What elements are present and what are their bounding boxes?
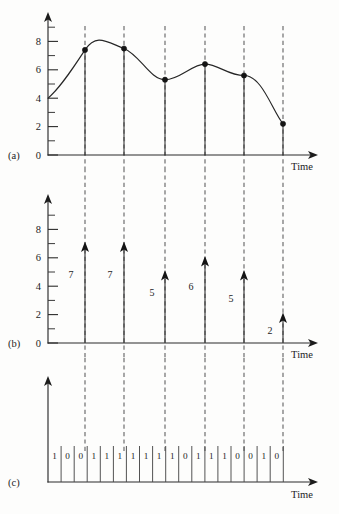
bit-label-13: 1 <box>209 451 214 461</box>
panel-a-ytick-label-6: 6 <box>36 64 41 75</box>
bit-label-17: 1 <box>261 451 266 461</box>
bit-label-10: 1 <box>170 451 175 461</box>
signal-sampling-figure: 0 2 4 6 8 (a) Time <box>0 0 339 514</box>
impulse-1 <box>81 242 89 343</box>
panel-b-ytick-label-0: 0 <box>36 338 41 349</box>
panel-a-label: (a) <box>8 150 20 162</box>
sample-point-5 <box>241 73 246 78</box>
panel-c-sampling-guides <box>85 358 283 452</box>
bit-label-18: 0 <box>274 451 279 461</box>
impulse-2 <box>120 242 128 343</box>
panel-a-time-label: Time <box>291 161 313 172</box>
panel-b-ytick-label-8: 8 <box>36 224 41 235</box>
panel-c: 1 0 0 1 1 1 1 1 1 1 0 1 1 1 0 0 1 0 (c) … <box>8 358 318 500</box>
panel-b-time-label: Time <box>291 349 313 360</box>
sample-point-3 <box>162 77 167 82</box>
impulse-4-value-label: 6 <box>189 281 194 292</box>
sample-point-6 <box>280 121 285 126</box>
panel-a-sampling-guides <box>85 26 283 168</box>
panel-c-label: (c) <box>8 477 20 489</box>
bit-label-9: 1 <box>157 451 162 461</box>
bit-label-4: 1 <box>92 451 97 461</box>
impulse-6-value-label: 2 <box>268 325 273 336</box>
panel-b-ytick-label-4: 4 <box>36 281 42 292</box>
impulse-5 <box>240 270 248 343</box>
bit-label-12: 1 <box>196 451 201 461</box>
bit-label-5: 1 <box>105 451 110 461</box>
bit-label-1: 1 <box>52 451 57 461</box>
panel-a: 0 2 4 6 8 (a) Time <box>8 12 318 172</box>
bit-label-15: 0 <box>235 451 240 461</box>
impulse-2-value-label: 7 <box>108 269 113 280</box>
panel-c-time-label: Time <box>291 489 313 500</box>
panel-b-label: (b) <box>8 338 21 350</box>
bit-label-11: 0 <box>183 451 188 461</box>
panel-a-ytick-label-0: 0 <box>36 150 41 161</box>
panel-b: 0 2 4 6 8 7 7 5 <box>8 168 318 360</box>
bit-label-8: 1 <box>144 451 149 461</box>
impulse-3 <box>161 270 169 343</box>
figure-container: 0 2 4 6 8 (a) Time <box>0 0 339 514</box>
panel-a-ytick-label-8: 8 <box>36 36 41 47</box>
panel-a-ytick-label-4: 4 <box>36 93 42 104</box>
bit-label-3: 0 <box>78 451 83 461</box>
sample-point-4 <box>202 62 207 67</box>
bit-label-6: 1 <box>118 451 123 461</box>
panel-a-ytick-label-2: 2 <box>36 121 41 132</box>
impulse-1-value-label: 7 <box>69 269 74 280</box>
impulse-4 <box>201 256 209 343</box>
panel-b-sampling-guides <box>85 168 283 358</box>
panel-b-ytick-label-6: 6 <box>36 252 41 263</box>
impulse-6 <box>279 313 287 343</box>
bit-label-16: 0 <box>248 451 253 461</box>
impulse-5-value-label: 5 <box>229 293 234 304</box>
sample-point-2 <box>121 46 126 51</box>
panel-b-ytick-label-2: 2 <box>36 309 41 320</box>
sample-point-1 <box>82 47 87 52</box>
impulse-3-value-label: 5 <box>150 287 155 298</box>
bit-label-7: 1 <box>131 451 136 461</box>
bit-label-2: 0 <box>65 451 70 461</box>
bit-label-14: 1 <box>222 451 227 461</box>
